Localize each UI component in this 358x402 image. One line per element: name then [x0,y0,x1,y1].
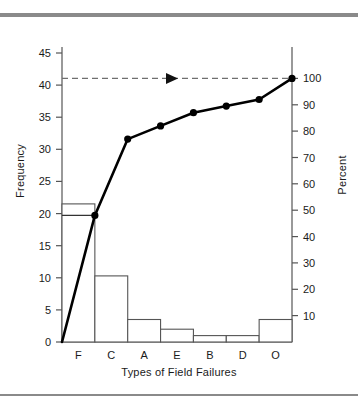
y-tick-label-right: 100 [303,72,321,84]
y-tick-label-left: 40 [39,79,51,91]
y-tick-label-right: 60 [303,178,315,190]
data-point-O [288,75,295,82]
y-tick-label-left: 25 [39,175,51,187]
y-tick-label-left: 30 [39,143,51,155]
x-category-label: F [75,349,82,361]
pareto-chart-figure: 0 5 10 15 20 25 30 35 40 45 10 20 [0,17,358,394]
x-axis-category-labels: F C A E B D O [75,349,280,361]
y-tick-label-right: 40 [303,231,315,243]
y-tick-label-right: 30 [303,257,315,269]
bottom-divider-rule [0,394,358,396]
y-axis-right-title: Percent [336,125,348,225]
x-category-label: O [271,349,280,361]
pareto-chart-svg: 0 5 10 15 20 25 30 35 40 45 10 20 [0,17,358,394]
bar-E [161,329,194,342]
y-tick-label-right: 20 [303,283,315,295]
y-tick-label-left: 45 [39,47,51,59]
data-point-F [91,212,98,219]
y-tick-label-right: 90 [303,99,315,111]
y-axis-left-ticks [56,53,62,342]
bar-A [128,320,161,343]
y-tick-label-left: 20 [39,208,51,220]
data-point-C [124,136,131,143]
x-category-label: C [107,349,115,361]
y-tick-label-left: 15 [39,240,51,252]
y-tick-label-left: 35 [39,111,51,123]
hundred-percent-reference-line [62,73,288,84]
frequency-bars [62,204,292,342]
bar-O [259,320,292,343]
x-axis-title: Types of Field Failures [0,366,358,378]
bar-C [95,276,128,342]
data-point-D [256,96,263,103]
y-tick-label-right: 70 [303,152,315,164]
data-point-A [157,122,164,129]
arrow-head-icon [166,73,178,84]
y-tick-label-left: 5 [45,304,51,316]
y-tick-label-right: 10 [303,310,315,322]
y-axis-left-title: Frequency [14,121,26,221]
y-axis-right-ticks [292,78,298,315]
y-tick-label-right: 50 [303,204,315,216]
x-category-label: D [239,349,247,361]
data-point-B [223,103,230,110]
bar-D [226,336,259,342]
x-category-label: A [140,349,148,361]
x-category-label: B [206,349,213,361]
y-axis-left-tick-labels: 0 5 10 15 20 25 30 35 40 45 [39,47,51,348]
y-axis-right-tick-labels: 10 20 30 40 50 60 70 80 90 100 [303,72,321,321]
data-point-E [190,109,197,116]
bar-B [193,336,226,342]
y-tick-label-right: 80 [303,125,315,137]
y-tick-label-left: 0 [45,336,51,348]
y-tick-label-left: 10 [39,272,51,284]
x-category-label: E [173,349,180,361]
